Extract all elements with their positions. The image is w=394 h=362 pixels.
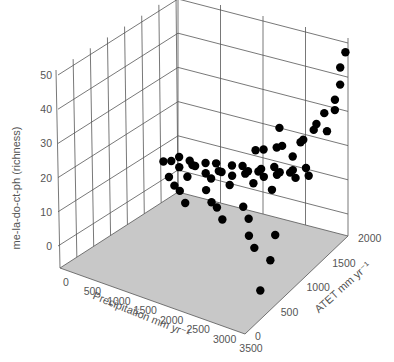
svg-text:0: 0: [46, 240, 52, 252]
svg-text:40: 40: [40, 103, 52, 115]
svg-text:10: 10: [40, 206, 52, 218]
svg-text:0: 0: [255, 330, 261, 342]
svg-text:3500: 3500: [239, 342, 263, 354]
svg-text:30: 30: [40, 137, 52, 149]
svg-text:500: 500: [281, 306, 299, 318]
svg-text:1000: 1000: [307, 281, 331, 293]
svg-text:1500: 1500: [332, 257, 356, 269]
svg-text:50: 50: [40, 69, 52, 81]
z-axis-label: me-la-do-ct-ph (richness): [10, 127, 22, 250]
scatter-3d-chart: 0102030405005001000150020002500300035000…: [0, 0, 394, 362]
svg-text:20: 20: [40, 172, 52, 184]
svg-text:0: 0: [63, 276, 69, 288]
svg-text:3000: 3000: [213, 333, 237, 345]
floor-plane: [60, 192, 348, 334]
svg-text:2000: 2000: [358, 232, 382, 244]
